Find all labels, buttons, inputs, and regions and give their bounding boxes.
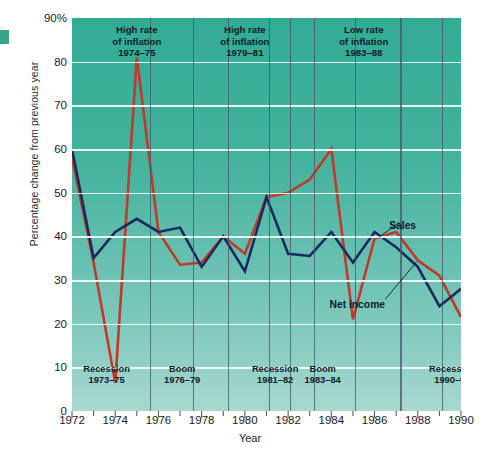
y-tick-label: 60 [33, 143, 67, 155]
y-tick-label: 90% [33, 12, 67, 24]
y-tick-label: 80 [33, 56, 67, 68]
chart-figure: Percentage change from previous year 90%… [0, 0, 500, 455]
x-tick-label: 1974 [102, 414, 128, 426]
x-tick-label: 1976 [146, 414, 172, 426]
x-tick-label: 1980 [232, 414, 258, 426]
x-tick-label: 1972 [59, 414, 85, 426]
y-axis-tick-labels: 90%80706050403020100 [33, 0, 67, 455]
y-tick-label: 30 [33, 274, 67, 286]
y-tick-label: 10 [33, 361, 67, 373]
x-tick-label: 1982 [275, 414, 301, 426]
x-tick-label: 1988 [405, 414, 431, 426]
x-tick-label: 1986 [362, 414, 388, 426]
edge-teal-marker [0, 30, 9, 44]
series-label-sales: Sales [389, 220, 416, 231]
x-tick-label: 1990 [448, 414, 474, 426]
y-tick-label: 40 [33, 230, 67, 242]
callout-leader-lines [72, 18, 461, 411]
leader-line [385, 262, 416, 300]
x-axis-title: Year [0, 432, 500, 444]
plot-area: High rateof inflation1974–75High rateof … [72, 18, 461, 411]
y-tick-label: 70 [33, 99, 67, 111]
x-tick-label: 1978 [189, 414, 215, 426]
y-tick-label: 50 [33, 187, 67, 199]
series-label-net-income: Net income [330, 299, 386, 310]
x-tick-label: 1984 [319, 414, 345, 426]
y-tick-label: 20 [33, 318, 67, 330]
